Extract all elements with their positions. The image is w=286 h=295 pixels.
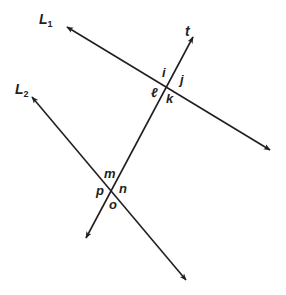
angle-label-l: ℓ [151,86,158,99]
angle-label-j: j [180,73,184,86]
label-t: t [185,24,190,38]
angle-label-m: m [104,167,116,180]
angle-label-p: p [96,184,104,197]
diagram-canvas [0,0,286,295]
transversal-t [86,37,193,238]
label-l2-name: L [15,81,24,97]
label-l1-sub: 1 [48,19,53,29]
label-l2-sub: 2 [24,89,29,99]
angle-label-n: n [119,182,127,195]
angle-label-k: k [166,92,173,105]
label-l1-name: L [39,11,48,27]
angle-label-i: i [162,66,166,79]
label-l2: L2 [15,82,29,99]
angle-label-o: o [109,198,117,211]
line-l1 [67,27,270,150]
label-l1: L1 [39,12,53,29]
line-l2 [32,97,186,280]
